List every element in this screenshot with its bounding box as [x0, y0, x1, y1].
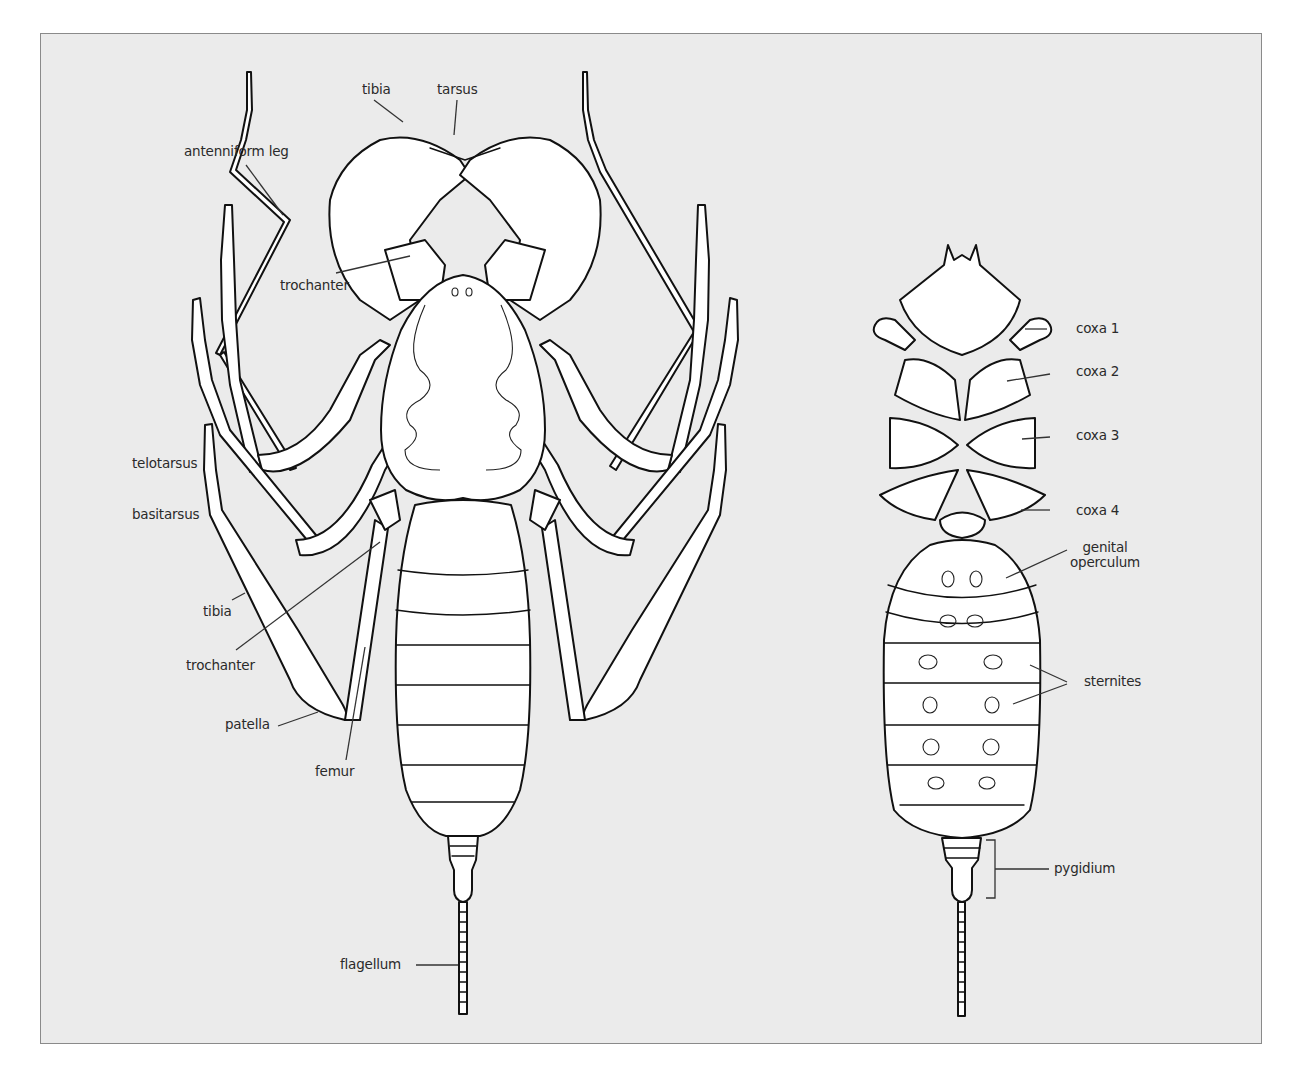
label-genital-operculum: genital operculum	[1060, 540, 1150, 570]
coxa-1-right	[1010, 318, 1051, 350]
label-pygidium: pygidium	[1054, 861, 1115, 876]
label-sternites: sternites	[1084, 674, 1141, 689]
label-telotarsus: telotarsus	[132, 456, 197, 471]
label-flagellum: flagellum	[340, 957, 401, 972]
label-genital-line2: operculum	[1060, 555, 1150, 570]
label-patella: patella	[225, 717, 270, 732]
ventral-abdomen	[884, 540, 1041, 838]
label-basitarsus: basitarsus	[132, 507, 199, 522]
label-genital-line1: genital	[1060, 540, 1150, 555]
label-coxa-2: coxa 2	[1076, 364, 1119, 379]
flagellum-ventral	[958, 902, 965, 1016]
flagellum	[459, 902, 467, 1014]
coxa-2-left	[895, 359, 960, 420]
coxa-3-left	[890, 418, 958, 468]
abdomen	[396, 500, 531, 836]
coxa-4-right	[967, 470, 1045, 520]
coxa-1-left	[874, 318, 915, 350]
label-tibia-leg: tibia	[203, 604, 232, 619]
coxa-4-left	[880, 470, 958, 520]
ventral-view	[874, 245, 1052, 1016]
label-antenniform-leg: antenniform leg	[184, 144, 289, 159]
label-trochanter-leg: trochanter	[186, 658, 255, 673]
label-trochanter-pedipalp: trochanter	[280, 278, 349, 293]
label-femur: femur	[315, 764, 354, 779]
dorsal-view	[192, 72, 738, 1014]
coxa-3-right	[967, 418, 1035, 468]
label-coxa-1: coxa 1	[1076, 321, 1119, 336]
label-coxa-3: coxa 3	[1076, 428, 1119, 443]
label-tibia-pedipalp: tibia	[362, 82, 391, 97]
coxa-2-right	[965, 359, 1030, 420]
label-coxa-4: coxa 4	[1076, 503, 1119, 518]
label-tarsus: tarsus	[437, 82, 478, 97]
